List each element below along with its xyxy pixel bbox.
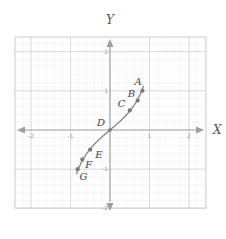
point-label-f: F (84, 159, 93, 170)
x-tick-label: -2 (28, 132, 34, 139)
point-label-g: G (80, 171, 88, 182)
x-tick-label: 2 (187, 132, 191, 139)
y-axis-label: Y (106, 13, 115, 27)
point-label-c: C (118, 98, 126, 109)
coordinate-diagram: -2-11221-1-2 ABCDEFG X Y (0, 0, 226, 239)
point-marker (80, 157, 84, 161)
arrow-up-icon (107, 39, 114, 47)
plot-canvas: -2-11221-1-2 ABCDEFG X Y (0, 0, 226, 239)
x-tick-label: -1 (68, 132, 74, 139)
y-tick-label: 1 (104, 87, 108, 94)
point-label-e: E (94, 149, 103, 160)
point-label-b: B (127, 88, 135, 99)
point-marker (88, 148, 92, 152)
point-label-a: A (133, 76, 141, 87)
y-tick-label: 2 (104, 48, 108, 55)
point-label-d: D (96, 117, 105, 128)
x-tick-label: 1 (148, 132, 152, 139)
y-tick-label: -2 (102, 204, 108, 211)
point-marker (128, 108, 132, 112)
arrow-left-icon (17, 127, 25, 134)
point-marker (140, 89, 144, 93)
arrow-right-icon (196, 127, 204, 134)
x-axis-label: X (212, 123, 222, 137)
y-tick-label: -1 (102, 165, 108, 172)
point-marker (136, 99, 140, 103)
axes (17, 39, 204, 211)
point-marker (108, 128, 112, 132)
